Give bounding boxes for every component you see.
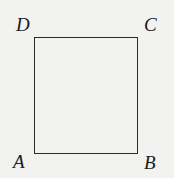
vertex-label-d: D [16,15,30,34]
vertex-label-c: C [144,15,157,34]
vertex-label-b: B [144,153,156,172]
square-diagram: D C A B [0,0,174,178]
square-abcd [34,37,138,154]
vertex-label-a: A [13,152,25,171]
